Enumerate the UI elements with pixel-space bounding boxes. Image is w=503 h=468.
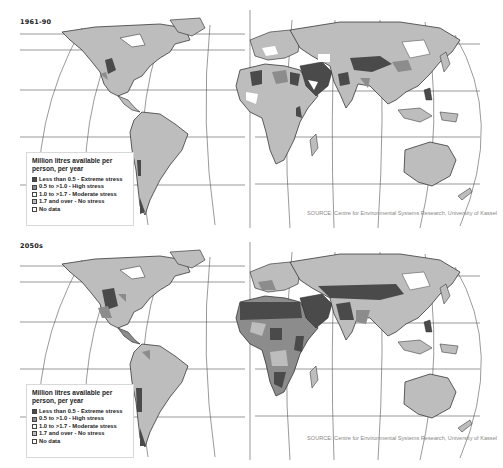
legend-item-no-stress: 1.7 and over - No stress [32,430,128,437]
legend-item-no-data: No data [32,206,128,213]
legend-label: No data [39,438,60,445]
swatch-high-icon [32,185,37,190]
australia [404,142,456,186]
legend-title-line1: Million litres available per [32,389,128,397]
legend-item-moderate-stress: 1.0 to >1.7 - Moderate stress [32,423,128,430]
legend-label: 0.5 to >1.0 - High stress [39,183,104,190]
source-credit: SOURCE: Centre for Environmental Systems… [307,435,497,441]
legend-item-no-data: No data [32,438,128,445]
legend-title-line1: Million litres available per [32,157,128,165]
legend-label: 0.5 to >1.0 - High stress [39,415,104,422]
legend-item-high-stress: 0.5 to >1.0 - High stress [32,415,128,422]
legend-label: 1.0 to >1.7 - Moderate stress [39,423,117,430]
north-america [62,24,190,96]
legend-label: 1.0 to >1.7 - Moderate stress [39,191,117,198]
legend-title: Million litres available per person, per… [32,389,128,405]
swatch-none-icon [32,199,37,204]
swatch-moderate-icon [32,192,37,197]
legend-title-line2: person, per year [32,165,128,173]
legend-title-line2: person, per year [32,397,128,405]
legend-item-moderate-stress: 1.0 to >1.7 - Moderate stress [32,191,128,198]
swatch-none-icon [32,431,37,436]
swatch-nodata-icon [32,439,37,444]
map-panel-2050s: 2050s Million litres available per perso… [0,232,503,462]
map-legend: Million litres available per person, per… [26,384,134,458]
swatch-moderate-icon [32,424,37,429]
map-legend: Million litres available per person, per… [26,152,134,226]
swatch-extreme-icon [32,177,37,182]
legend-label: Less than 0.5 - Extreme stress [39,408,122,415]
legend-label: 1.7 and over - No stress [39,430,104,437]
swatch-extreme-icon [32,409,37,414]
swatch-high-icon [32,417,37,422]
legend-item-extreme-stress: Less than 0.5 - Extreme stress [32,176,128,183]
legend-label: No data [39,206,60,213]
legend-item-no-stress: 1.7 and over - No stress [32,198,128,205]
swatch-nodata-icon [32,207,37,212]
legend-title: Million litres available per person, per… [32,157,128,173]
map-panel-1961-90: 1961-90 Million litres available per per… [0,0,503,230]
panel-title: 1961-90 [20,18,51,26]
legend-item-high-stress: 0.5 to >1.0 - High stress [32,183,128,190]
legend-label: Less than 0.5 - Extreme stress [39,176,122,183]
legend-label: 1.7 and over - No stress [39,198,104,205]
legend-item-extreme-stress: Less than 0.5 - Extreme stress [32,408,128,415]
panel-title: 2050s [20,242,43,250]
source-credit: SOURCE: Centre for Environmental Systems… [307,210,497,216]
